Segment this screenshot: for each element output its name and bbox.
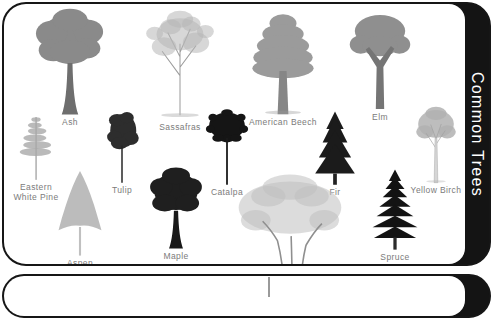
common-trees-card: Ash Sassafras American Beech Elm Eastern…: [2, 2, 491, 266]
tree-chart-area: Ash Sassafras American Beech Elm Eastern…: [4, 4, 465, 264]
tree-spruce-illustration: [361, 164, 429, 251]
tree-aspen-illustration: [43, 168, 117, 257]
tree-label-elm: Elm: [372, 111, 388, 122]
tree-label-spruce: Spruce: [380, 251, 409, 262]
tree-sassafras: Sassafras: [133, 8, 227, 103]
tree-label-maple: Maple: [163, 250, 188, 261]
tree-sycamore-illustration: [233, 170, 347, 266]
card-title-band: Common Trees: [465, 4, 489, 264]
next-card-content: [4, 276, 465, 316]
tree-maple: Maple: [141, 166, 211, 260]
tree-maple-illustration: [141, 166, 211, 250]
tree-label-aspen: Aspen: [67, 257, 93, 266]
tree-ash: Ash: [24, 6, 116, 101]
tree-american-beech: American Beech: [238, 8, 328, 101]
tree-spruce: Spruce: [361, 164, 429, 262]
tree-elm: Elm: [338, 10, 422, 102]
tree-sycamore: Sycamore: [233, 170, 347, 262]
tree-aspen: Aspen: [43, 168, 117, 262]
next-card-partial: [2, 274, 491, 318]
next-card-stem-line: [268, 277, 270, 297]
